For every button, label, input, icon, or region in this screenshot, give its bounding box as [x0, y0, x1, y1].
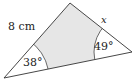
side-label: 8 cm [8, 20, 36, 33]
unknown-x-label: x [101, 14, 107, 25]
angle-left-label: 38° [23, 56, 43, 69]
triangle-diagram: 8 cm x 38° 49° [0, 0, 138, 83]
angle-right-label: 49° [94, 40, 114, 53]
